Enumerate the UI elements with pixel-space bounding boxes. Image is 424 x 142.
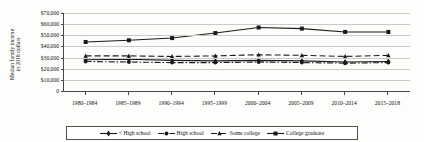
- plot-area: [63, 13, 410, 92]
- data-point-marker: [343, 61, 347, 65]
- data-point-marker: [170, 36, 174, 40]
- x-tick-mark: [128, 91, 129, 95]
- y-tick-label: $40,000: [41, 43, 59, 49]
- x-tick-label: 1980–1984: [72, 100, 97, 106]
- data-point-marker: [84, 59, 88, 63]
- series-line: [86, 59, 389, 62]
- chart-legend: < High schoolHigh schoolSome collegeColl…: [66, 126, 358, 140]
- data-point-marker: [213, 61, 217, 65]
- y-axis-labels: $70,000$60,000$50,000$40,000$30,000$20,0…: [14, 8, 61, 96]
- legend-item[interactable]: < High school: [100, 130, 151, 137]
- data-point-marker: [386, 61, 390, 65]
- x-tick-label: 1985–1989: [115, 100, 140, 106]
- x-tick-label: 1995–1999: [202, 100, 227, 106]
- gridline: [64, 46, 410, 47]
- legend-label: College graduate: [286, 130, 324, 136]
- x-tick-mark: [301, 91, 302, 95]
- x-tick-label: 1990–1994: [159, 100, 184, 106]
- y-tick-label: $70,000: [41, 10, 59, 16]
- x-tick-mark: [214, 91, 215, 95]
- x-tick-mark: [85, 91, 86, 95]
- gridline: [64, 80, 410, 81]
- x-tick-mark: [171, 91, 172, 95]
- gridline: [64, 58, 410, 59]
- y-tick-label: $20,000: [41, 66, 59, 72]
- legend-key-icon: [158, 130, 175, 137]
- legend-label: Some college: [230, 130, 260, 136]
- legend-item[interactable]: Some college: [211, 130, 260, 137]
- data-point-marker: [300, 61, 304, 65]
- data-point-marker: [257, 60, 261, 64]
- legend-label: < High school: [119, 130, 151, 136]
- y-tick-label: $60,000: [41, 21, 59, 27]
- data-point-marker: [257, 25, 261, 29]
- y-tick-label: $30,000: [41, 55, 59, 61]
- gridline: [64, 35, 410, 36]
- legend-item[interactable]: High school: [158, 130, 204, 137]
- x-tick-label: 2000–2004: [245, 100, 270, 106]
- gridline: [64, 13, 410, 14]
- legend-label: High school: [177, 130, 204, 136]
- data-point-marker: [127, 60, 131, 64]
- x-tick-mark: [387, 91, 388, 95]
- chart-container: Median family income in 2018 dollars $70…: [0, 0, 424, 142]
- y-tick-label: $10,000: [41, 77, 59, 83]
- data-point-marker: [127, 38, 131, 42]
- series-line: [86, 55, 389, 57]
- x-tick-label: 2005–2009: [288, 100, 313, 106]
- x-tick-label: 2010–2014: [332, 100, 357, 106]
- x-tick-mark: [344, 91, 345, 95]
- x-axis-labels: 1980–19841985–19891990–19941995–19992000…: [63, 96, 409, 108]
- data-point-marker: [343, 30, 347, 34]
- y-tick-label: 0: [56, 88, 59, 94]
- gridline: [64, 24, 410, 25]
- data-point-marker: [386, 30, 390, 34]
- y-tick-label: $50,000: [41, 32, 59, 38]
- gridline: [64, 69, 410, 70]
- x-tick-label: 2015–2018: [375, 100, 400, 106]
- legend-key-icon: [100, 130, 117, 137]
- legend-item[interactable]: College graduate: [267, 130, 324, 137]
- x-tick-mark: [258, 91, 259, 95]
- data-point-marker: [84, 40, 88, 44]
- legend-key-icon: [267, 130, 284, 137]
- legend-key-icon: [211, 130, 228, 137]
- data-point-marker: [170, 61, 174, 65]
- data-point-marker: [300, 27, 304, 31]
